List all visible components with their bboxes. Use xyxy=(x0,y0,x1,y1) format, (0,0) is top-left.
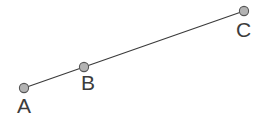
geometry-figure-svg xyxy=(0,0,262,120)
geometry-figure-canvas: A B C xyxy=(0,0,262,120)
point-marker-c[interactable] xyxy=(239,6,248,15)
point-label-b: B xyxy=(81,72,95,93)
line-segment-ac xyxy=(24,11,244,88)
point-marker-a[interactable] xyxy=(19,83,28,92)
point-label-c: C xyxy=(236,19,251,40)
point-label-a: A xyxy=(17,95,31,116)
